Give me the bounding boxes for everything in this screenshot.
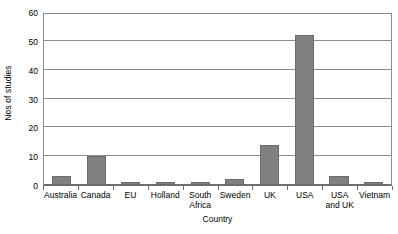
y-axis-tick-label: 60 xyxy=(29,8,38,18)
plot-area xyxy=(43,13,392,186)
x-axis-category-label: USA and UK xyxy=(322,190,357,214)
x-axis-category-labels: AustraliaCanadaEUHollandSouth AfricaSwed… xyxy=(43,190,392,214)
x-axis-category-label: Sweden xyxy=(218,190,253,214)
x-axis-category-label: Holland xyxy=(148,190,183,214)
bar-slot xyxy=(218,14,253,185)
y-axis-tick-label: 50 xyxy=(29,37,38,47)
bar-slot xyxy=(79,14,114,185)
bar[interactable] xyxy=(52,176,71,185)
bar-slot xyxy=(322,14,357,185)
bar[interactable] xyxy=(191,182,210,185)
bar-series xyxy=(44,14,391,185)
bar-slot xyxy=(113,14,148,185)
y-axis-title-text: Nos of studies xyxy=(3,65,13,120)
bar[interactable] xyxy=(87,156,106,185)
bar-slot xyxy=(356,14,391,185)
bar-chart-figure: Nos of studies 0102030405060 AustraliaCa… xyxy=(0,0,398,234)
bar[interactable] xyxy=(329,176,348,185)
y-axis-title: Nos of studies xyxy=(0,0,16,186)
bar-slot xyxy=(44,14,79,185)
y-axis-tick-label: 0 xyxy=(33,181,38,191)
bar-slot xyxy=(287,14,322,185)
x-axis-category-label: South Africa xyxy=(183,190,218,214)
bar[interactable] xyxy=(260,145,279,185)
y-axis-tick-labels: 0102030405060 xyxy=(16,13,41,186)
x-axis-title: Country xyxy=(43,214,392,224)
y-axis-tick-label: 40 xyxy=(29,66,38,76)
bar-slot xyxy=(148,14,183,185)
bar-slot xyxy=(183,14,218,185)
y-axis-tick-label: 20 xyxy=(29,123,38,133)
x-axis-category-label: Canada xyxy=(78,190,113,214)
x-axis-category-label: Vietnam xyxy=(357,190,392,214)
bar[interactable] xyxy=(225,179,244,185)
bar[interactable] xyxy=(121,182,140,185)
bar[interactable] xyxy=(295,35,314,185)
x-axis-tick-mark xyxy=(392,186,393,190)
y-axis-tick-label: 30 xyxy=(29,95,38,105)
x-axis-category-label: Australia xyxy=(43,190,78,214)
x-axis-category-label: EU xyxy=(113,190,148,214)
bar[interactable] xyxy=(364,182,383,185)
x-axis-category-label: USA xyxy=(287,190,322,214)
bar[interactable] xyxy=(156,182,175,185)
x-axis-category-label: UK xyxy=(252,190,287,214)
bar-slot xyxy=(252,14,287,185)
y-axis-tick-label: 10 xyxy=(29,152,38,162)
